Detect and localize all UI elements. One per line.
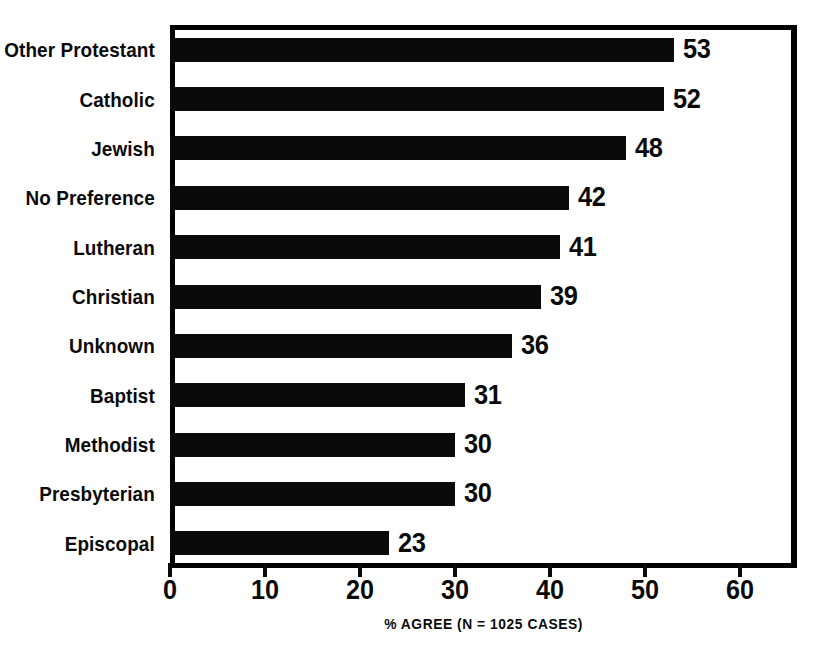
bar-row: 53 [170, 25, 797, 74]
category-label: Lutheran [16, 222, 162, 271]
bar-chart: Other ProtestantCatholicJewishNo Prefere… [0, 0, 815, 648]
bar [170, 186, 569, 210]
x-axis-tick-labels: 0102030405060 [170, 576, 797, 610]
category-label: Catholic [16, 74, 162, 123]
bar [170, 531, 389, 555]
category-label: No Preference [16, 173, 162, 222]
bar-value-label: 36 [521, 332, 548, 359]
bar [170, 38, 674, 62]
category-label: Christian [16, 272, 162, 321]
bar-value-label: 52 [673, 86, 700, 113]
bar-value-label: 30 [464, 480, 491, 507]
bar-value-label: 30 [464, 431, 491, 458]
x-axis-tick-label: 10 [251, 576, 279, 604]
x-axis-tick-label: 60 [726, 576, 754, 604]
bar-value-label: 31 [474, 382, 501, 409]
bar-row: 42 [170, 173, 797, 222]
category-label: Methodist [16, 420, 162, 469]
cropped-title-sliver [0, 0, 815, 2]
bar-value-label: 41 [569, 234, 596, 261]
bar [170, 87, 664, 111]
bar [170, 383, 465, 407]
bar-series: 5352484241393631303023 [170, 25, 797, 568]
bar-value-label: 42 [578, 184, 605, 211]
bar-value-label: 23 [398, 530, 425, 557]
x-axis-tick-label: 20 [346, 576, 374, 604]
bar [170, 334, 512, 358]
bar [170, 235, 560, 259]
category-axis-labels: Other ProtestantCatholicJewishNo Prefere… [0, 25, 162, 568]
bar-value-label: 53 [683, 36, 710, 63]
bar-row: 31 [170, 371, 797, 420]
bar-value-label: 39 [550, 283, 577, 310]
x-axis-tick-label: 0 [163, 576, 177, 604]
bar-row: 48 [170, 124, 797, 173]
bar-row: 52 [170, 74, 797, 123]
category-label: Episcopal [16, 519, 162, 568]
bar-row: 36 [170, 321, 797, 370]
bar-row: 30 [170, 420, 797, 469]
category-label: Baptist [16, 371, 162, 420]
x-axis-caption: % AGREE (N = 1025 CASES) [195, 615, 772, 632]
category-label: Other Protestant [16, 25, 162, 74]
category-label: Unknown [16, 321, 162, 370]
bar-value-label: 48 [635, 135, 662, 162]
bar-row: 23 [170, 519, 797, 568]
bar-row: 30 [170, 469, 797, 518]
bar [170, 433, 455, 457]
bar [170, 482, 455, 506]
bar [170, 285, 541, 309]
bar [170, 136, 626, 160]
x-axis-tick-label: 30 [441, 576, 469, 604]
category-label: Jewish [16, 124, 162, 173]
x-axis-tick-label: 40 [536, 576, 564, 604]
x-axis-tick-label: 50 [631, 576, 659, 604]
bar-row: 41 [170, 222, 797, 271]
bar-row: 39 [170, 272, 797, 321]
category-label: Presbyterian [16, 469, 162, 518]
